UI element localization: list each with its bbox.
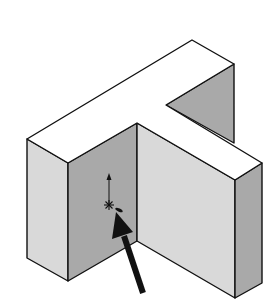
right-block-side-face xyxy=(235,163,262,298)
cad-figure xyxy=(0,0,278,304)
t-block-drawing xyxy=(0,0,278,304)
left-block-side-face xyxy=(27,139,68,281)
sketch-point-star-icon xyxy=(104,200,114,210)
